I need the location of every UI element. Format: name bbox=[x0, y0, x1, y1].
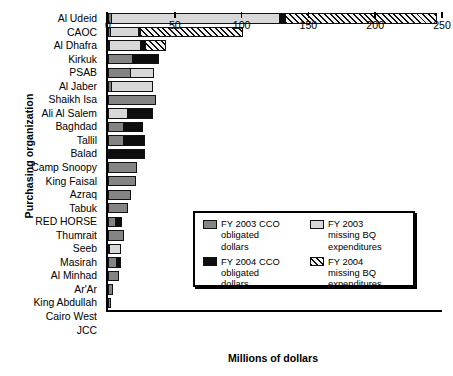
bar-segment-bq03 bbox=[110, 27, 139, 37]
bar-row bbox=[108, 120, 442, 134]
bar-segment-cco03 bbox=[108, 271, 119, 281]
legend-item: FY 2003missing BQexpenditures bbox=[310, 218, 407, 252]
stacked-bar bbox=[108, 176, 136, 186]
stacked-bar bbox=[108, 217, 122, 227]
bar-row bbox=[108, 175, 442, 189]
bar-row bbox=[108, 93, 442, 107]
stacked-bar bbox=[108, 149, 145, 159]
stacked-bar bbox=[108, 230, 124, 240]
legend-label-line: dollars bbox=[221, 241, 280, 252]
y-axis-tick-label: Masirah bbox=[0, 256, 101, 270]
x-axis-tick bbox=[241, 12, 243, 18]
stacked-bar bbox=[108, 81, 153, 91]
y-axis-tick-label: Thumrait bbox=[0, 229, 101, 243]
bar-segment-bq03 bbox=[109, 244, 121, 254]
y-axis-tick-label: PSAB bbox=[0, 66, 101, 80]
bar-row bbox=[108, 134, 442, 148]
bar-segment-cco04 bbox=[123, 135, 144, 145]
legend-item: FY 2004 CCOobligateddollars bbox=[203, 256, 300, 290]
y-axis-tick-label: Balad bbox=[0, 147, 101, 161]
bar-row bbox=[108, 296, 442, 310]
bar-segment-cco03 bbox=[108, 162, 137, 172]
bar-row bbox=[108, 80, 442, 94]
x-axis-tick bbox=[441, 12, 443, 18]
legend-label-line: dollars bbox=[221, 278, 280, 289]
bar-segment-bq03 bbox=[111, 13, 279, 23]
legend-swatch-cco04 bbox=[203, 257, 217, 266]
y-axis-tick-label: Al Udeid bbox=[0, 12, 101, 26]
bar-row bbox=[108, 161, 442, 175]
x-axis-tick bbox=[174, 12, 176, 18]
y-axis-tick-label: CAOC bbox=[0, 26, 101, 40]
x-axis-tick-label: 50 bbox=[169, 19, 181, 31]
stacked-bar bbox=[108, 271, 119, 281]
bar-segment-cco04 bbox=[123, 122, 143, 132]
y-axis-tick-label: King Faisal bbox=[0, 175, 101, 189]
x-axis-tick bbox=[308, 12, 310, 18]
y-axis-tick-label: Tallil bbox=[0, 134, 101, 148]
x-axis-title: Millions of dollars bbox=[106, 352, 440, 364]
legend-label-line: FY 2003 CCO bbox=[221, 218, 280, 229]
x-axis-tick-label: 200 bbox=[366, 19, 384, 31]
legend-label-line: missing BQ bbox=[328, 229, 382, 240]
y-axis-tick-label: RED HORSE bbox=[0, 215, 101, 229]
legend-label: FY 2003missing BQexpenditures bbox=[328, 218, 382, 252]
x-axis-tick-label: 150 bbox=[300, 19, 318, 31]
y-axis-tick-label: Camp Snoopy bbox=[0, 161, 101, 175]
y-axis-tick-label: Azraq bbox=[0, 188, 101, 202]
bar-segment-cco04 bbox=[133, 54, 160, 64]
bar-segment-bq03 bbox=[109, 40, 141, 50]
y-axis-tick-label: Tabuk bbox=[0, 202, 101, 216]
stacked-bar bbox=[108, 190, 131, 200]
x-axis-tick bbox=[374, 12, 376, 18]
legend-label: FY 2003 CCOobligateddollars bbox=[221, 218, 280, 252]
x-axis-tick-label: 250 bbox=[433, 19, 451, 31]
bar-segment-bq03 bbox=[130, 68, 154, 78]
stacked-bar bbox=[108, 284, 113, 294]
bar-row bbox=[108, 107, 442, 121]
y-axis-tick-label: Kirkuk bbox=[0, 53, 101, 67]
bar-row bbox=[108, 26, 442, 40]
y-axis-tick-label: Al Jaber bbox=[0, 80, 101, 94]
bar-row bbox=[108, 66, 442, 80]
bar-segment-cco03 bbox=[108, 203, 128, 213]
y-axis-tick-label: Cairo West bbox=[0, 310, 101, 324]
stacked-bar bbox=[108, 95, 156, 105]
bar-segment-cco04 bbox=[115, 217, 122, 227]
bar-row bbox=[108, 188, 442, 202]
stacked-bar bbox=[108, 203, 128, 213]
x-axis-tick-label: 100 bbox=[233, 19, 251, 31]
y-axis-tick-label: JCC bbox=[0, 324, 101, 338]
stacked-bar bbox=[108, 54, 159, 64]
y-axis-tick-label: Al Minhad bbox=[0, 269, 101, 283]
stacked-bar bbox=[108, 122, 143, 132]
legend-swatch-bq04 bbox=[310, 257, 324, 266]
stacked-bar bbox=[108, 108, 153, 118]
y-axis-tick-labels: Al UdeidCAOCAl DhafraKirkukPSABAl JaberS… bbox=[0, 12, 101, 337]
legend-label: FY 2004missing BQexpenditures bbox=[328, 256, 382, 290]
bar-row bbox=[108, 147, 442, 161]
y-axis-tick-label: Seeb bbox=[0, 242, 101, 256]
y-axis-tick-label: Baghdad bbox=[0, 120, 101, 134]
bar-row bbox=[108, 12, 442, 26]
legend-row: FY 2003 CCOobligateddollarsFY 2003missin… bbox=[203, 218, 407, 252]
y-axis-tick-label: King Abdullah bbox=[0, 296, 101, 310]
bar-segment-bq03 bbox=[111, 81, 152, 91]
chart-legend: FY 2003 CCOobligateddollarsFY 2003missin… bbox=[193, 211, 415, 287]
bar-segment-cco03 bbox=[108, 190, 131, 200]
bar-segment-cco03 bbox=[108, 95, 156, 105]
legend-label-line: obligated bbox=[221, 267, 280, 278]
legend-item: FY 2003 CCOobligateddollars bbox=[203, 218, 300, 252]
bar-segment-bq03 bbox=[108, 108, 128, 118]
legend-label-line: FY 2004 bbox=[328, 256, 382, 267]
bar-row bbox=[108, 324, 442, 338]
bar-row bbox=[108, 39, 442, 53]
stacked-bar bbox=[108, 257, 121, 267]
bar-segment-cco03 bbox=[108, 122, 124, 132]
x-axis-tick-label: 0 bbox=[105, 19, 111, 31]
legend-swatch-bq03 bbox=[310, 220, 324, 229]
legend-label-line: obligated bbox=[221, 229, 280, 240]
y-axis-tick-label: Ar'Ar bbox=[0, 283, 101, 297]
legend-item: FY 2004missing BQexpenditures bbox=[310, 256, 407, 290]
stacked-bar bbox=[108, 40, 166, 50]
